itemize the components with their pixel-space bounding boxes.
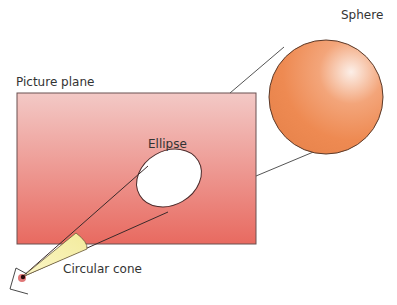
eye-icon — [10, 268, 28, 294]
label-sphere: Sphere — [341, 8, 383, 22]
sphere — [269, 40, 383, 154]
label-circular-cone: Circular cone — [63, 262, 142, 276]
label-picture-plane: Picture plane — [16, 75, 94, 89]
label-ellipse: Ellipse — [148, 137, 187, 151]
perspective-diagram — [0, 0, 397, 305]
picture-plane — [17, 93, 256, 244]
